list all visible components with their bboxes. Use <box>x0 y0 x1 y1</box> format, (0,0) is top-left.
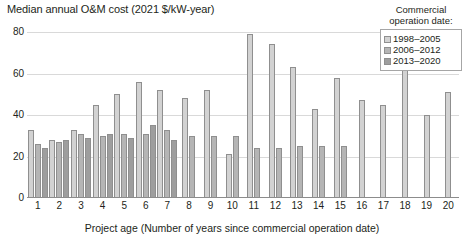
x-tick-label: 12 <box>265 200 287 212</box>
bar <box>121 134 127 198</box>
bar <box>85 138 91 198</box>
bar <box>445 92 451 198</box>
bar <box>114 94 120 198</box>
bar <box>341 146 347 198</box>
bar-group <box>113 32 135 198</box>
bar <box>233 136 239 198</box>
x-tick-label: 8 <box>178 200 200 212</box>
bar <box>164 130 170 198</box>
bar <box>150 125 156 198</box>
bar-group <box>157 32 179 198</box>
legend-item[interactable]: 2013–2020 <box>384 56 457 66</box>
bar <box>71 130 77 198</box>
bar <box>290 67 296 198</box>
bar <box>276 148 282 198</box>
bar <box>63 140 69 198</box>
bar <box>247 34 253 198</box>
x-axis-label: Project age (Number of years since comme… <box>0 222 464 234</box>
x-tick-label: 16 <box>351 200 373 212</box>
bar <box>402 59 408 198</box>
bar <box>319 146 325 198</box>
bar <box>380 105 386 198</box>
y-axis-tick-labels: 020406080 <box>0 32 24 198</box>
bar-group <box>178 32 200 198</box>
bar <box>182 98 188 198</box>
bar <box>189 136 195 198</box>
x-tick-label: 13 <box>286 200 308 212</box>
legend-swatch-icon <box>384 47 391 54</box>
bar <box>128 138 134 198</box>
bar <box>78 134 84 198</box>
bar <box>359 100 365 198</box>
legend-title: Commercial operation date: <box>380 4 462 26</box>
x-tick-label: 17 <box>373 200 395 212</box>
y-tick-label: 0 <box>2 193 24 203</box>
y-tick-label: 20 <box>2 152 24 162</box>
legend-swatch-icon <box>384 58 391 65</box>
legend-label: 2013–2020 <box>393 56 441 66</box>
bar-group <box>70 32 92 198</box>
x-tick-label: 11 <box>243 200 265 212</box>
x-tick-label: 2 <box>49 200 71 212</box>
bar-group <box>27 32 49 198</box>
x-tick-label: 19 <box>416 200 438 212</box>
bar <box>100 136 106 198</box>
bar <box>297 146 303 198</box>
y-tick-label: 80 <box>2 27 24 37</box>
x-tick-label: 18 <box>394 200 416 212</box>
bar-group <box>286 32 308 198</box>
x-tick-label: 5 <box>113 200 135 212</box>
x-tick-label: 9 <box>200 200 222 212</box>
x-axis-tick-labels: 1234567891011121314151617181920 <box>27 200 459 214</box>
bar-group <box>243 32 265 198</box>
x-axis-line <box>27 197 459 198</box>
bar <box>136 82 142 198</box>
bar <box>28 130 34 198</box>
bar <box>143 134 149 198</box>
bar-group <box>49 32 71 198</box>
bar-group <box>265 32 287 198</box>
bar <box>42 148 48 198</box>
bar-group <box>308 32 330 198</box>
bar-group <box>329 32 351 198</box>
y-tick-label: 60 <box>2 69 24 79</box>
bar-group <box>351 32 373 198</box>
bar <box>171 140 177 198</box>
bar <box>93 105 99 198</box>
legend-item[interactable]: 1998–2005 <box>384 34 457 44</box>
x-tick-label: 1 <box>27 200 49 212</box>
bar <box>49 140 55 198</box>
bar <box>157 90 163 198</box>
x-tick-label: 3 <box>70 200 92 212</box>
bar <box>35 144 41 198</box>
x-tick-label: 10 <box>221 200 243 212</box>
x-tick-label: 20 <box>437 200 459 212</box>
x-tick-label: 4 <box>92 200 114 212</box>
bar <box>269 44 275 198</box>
legend: Commercial operation date: 1998–20052006… <box>380 4 462 71</box>
bar <box>56 142 62 198</box>
bar-group <box>200 32 222 198</box>
y-tick-label: 40 <box>2 110 24 120</box>
chart-title: Median annual O&M cost (2021 $/kW-year) <box>7 3 214 15</box>
legend-box: 1998–20052006–20122013–2020 <box>380 29 462 71</box>
legend-item[interactable]: 2006–2012 <box>384 45 457 55</box>
x-tick-label: 6 <box>135 200 157 212</box>
bar <box>226 154 232 198</box>
x-tick-label: 14 <box>308 200 330 212</box>
legend-label: 1998–2005 <box>393 34 441 44</box>
x-tick-label: 7 <box>157 200 179 212</box>
bar <box>254 148 260 198</box>
bar <box>312 109 318 198</box>
bar <box>107 134 113 198</box>
bar <box>204 90 210 198</box>
bar-group <box>221 32 243 198</box>
bar <box>334 78 340 198</box>
chart-figure: Median annual O&M cost (2021 $/kW-year) … <box>0 0 464 242</box>
bar-group <box>92 32 114 198</box>
legend-label: 2006–2012 <box>393 45 441 55</box>
bar <box>424 115 430 198</box>
x-tick-label: 15 <box>329 200 351 212</box>
bar-group <box>135 32 157 198</box>
legend-swatch-icon <box>384 36 391 43</box>
